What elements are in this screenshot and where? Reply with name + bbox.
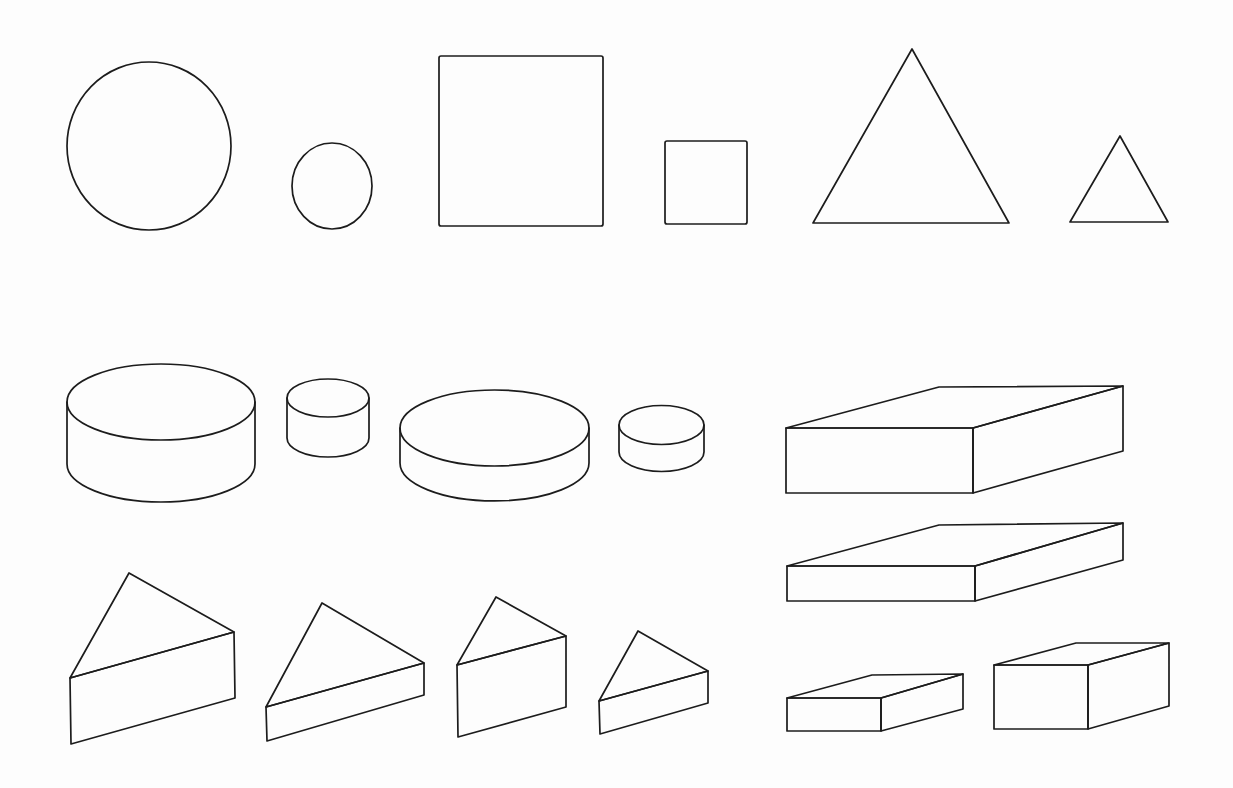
small-circle (292, 143, 372, 229)
shapes-diagram (0, 0, 1233, 788)
small-tall-box (994, 643, 1169, 729)
large-flat-cylinder (400, 390, 589, 501)
large-flat-box (787, 523, 1123, 601)
large-tall-cylinder (67, 364, 255, 502)
small-triangle (1070, 136, 1168, 222)
small-flat-triangular-prism (599, 631, 708, 734)
large-tall-box (786, 386, 1123, 493)
small-tall-cylinder (287, 379, 369, 457)
small-square (665, 141, 747, 224)
flat-shapes-row (67, 49, 1168, 230)
large-square (439, 56, 603, 226)
small-flat-cylinder (619, 406, 704, 472)
boxes-group (786, 386, 1169, 731)
large-circle (67, 62, 231, 230)
small-tall-triangular-prism (457, 597, 566, 737)
diagram-svg (0, 0, 1233, 788)
large-tall-triangular-prism (70, 573, 235, 744)
large-triangle (813, 49, 1009, 223)
small-flat-box (787, 674, 963, 731)
cylinders-group (67, 364, 704, 502)
prisms-group (70, 573, 708, 744)
large-flat-triangular-prism (266, 603, 424, 741)
